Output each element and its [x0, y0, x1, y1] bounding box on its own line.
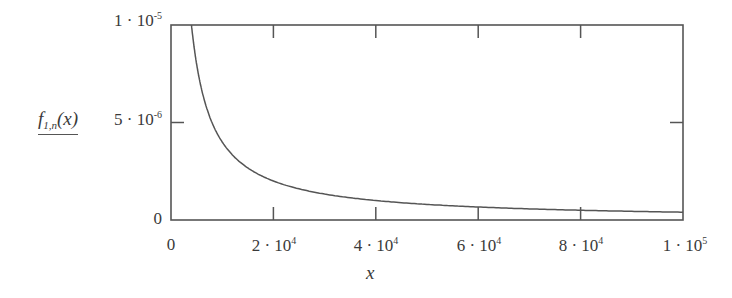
plot-frame — [171, 25, 683, 220]
x-tick-label-1e5: 1 · 105 — [640, 235, 730, 256]
data-curve — [192, 25, 684, 212]
x-tick-label-8e4: 8 · 104 — [536, 235, 626, 256]
x-tick-label-6e4: 6 · 104 — [434, 235, 524, 256]
x-axis-title: x — [366, 262, 374, 284]
x-tick-label-2e4: 2 · 104 — [229, 235, 319, 256]
x-tick-label-4e4: 4 · 104 — [331, 235, 421, 256]
x-tick-label-0: 0 — [126, 235, 216, 255]
y-tick-label-mid: 5 · 10-6 — [72, 109, 162, 130]
axis-ticks — [171, 25, 683, 220]
y-tick-label-zero: 0 — [72, 209, 162, 229]
y-tick-label-max: 1 · 10-5 — [72, 10, 162, 31]
